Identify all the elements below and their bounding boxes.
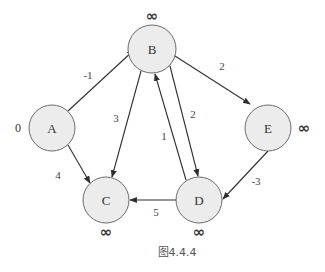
edge-weight-d-c: 5 xyxy=(153,206,159,218)
node-label: B xyxy=(148,42,157,57)
edge-weight-d-b: 1 xyxy=(161,130,167,142)
node-label: E xyxy=(264,121,272,136)
edge-a-to-c xyxy=(68,145,90,183)
node-label: D xyxy=(194,193,203,208)
figure-caption: 图4.4.4 xyxy=(158,246,197,259)
edge-weight-b-c: 3 xyxy=(113,112,119,124)
edge-a-to-b xyxy=(68,50,134,111)
edge-b-to-c xyxy=(112,71,141,177)
distance-label-d: ∞ xyxy=(193,223,206,241)
distance-label-a: 0 xyxy=(15,121,21,135)
edge-weight-e-d: -3 xyxy=(251,175,261,187)
node-label: A xyxy=(47,121,57,136)
edges-group xyxy=(68,50,268,200)
node-b: B xyxy=(128,25,176,73)
node-a: A xyxy=(29,105,75,151)
edge-e-to-d xyxy=(223,151,268,199)
graph-diagram: -1432215-3 ABCDE 0∞∞∞∞ 图4.4.4 xyxy=(0,0,325,272)
distance-label-c: ∞ xyxy=(100,223,113,241)
edge-b-to-e xyxy=(175,56,250,104)
node-d: D xyxy=(176,177,222,223)
distance-label-e: ∞ xyxy=(298,119,311,137)
edge-weight-b-d: 2 xyxy=(190,108,196,120)
edge-b-to-d xyxy=(170,66,198,176)
nodes-group: ABCDE xyxy=(29,25,291,223)
edge-weight-a-b: -1 xyxy=(83,69,92,81)
edge-weight-b-e: 2 xyxy=(219,60,225,72)
edge-d-to-b xyxy=(155,74,186,180)
node-c: C xyxy=(83,177,129,223)
node-label: C xyxy=(102,193,111,208)
distance-label-b: ∞ xyxy=(146,7,159,25)
node-e: E xyxy=(245,105,291,151)
edge-weight-a-c: 4 xyxy=(55,169,61,181)
